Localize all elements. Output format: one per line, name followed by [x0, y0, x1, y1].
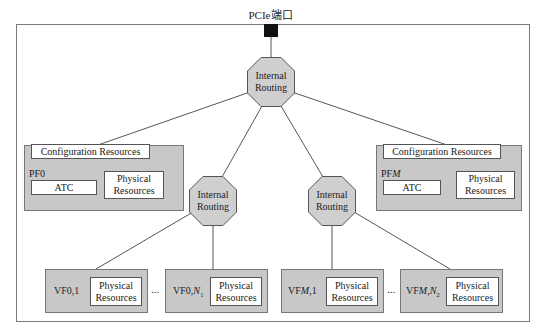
- router-label: Internal: [197, 189, 228, 200]
- internal-routing-right: InternalRouting: [308, 176, 356, 226]
- pfm-label: PFM: [381, 168, 400, 179]
- pfm-physical-resources: PhysicalResources: [456, 171, 515, 199]
- vf0-1-label: VF0,1: [54, 285, 79, 296]
- vf0-n1-label: VF0,N1: [173, 285, 203, 299]
- router-label: Routing: [197, 201, 229, 212]
- router-label: Internal: [255, 70, 286, 81]
- vf0-1-box: VF0,1 PhysicalResources: [45, 269, 148, 313]
- vf0-n1-physical-resources: PhysicalResources: [210, 277, 262, 306]
- pf0-label: PF0: [29, 168, 45, 179]
- internal-routing-top: InternalRouting: [247, 57, 295, 107]
- pf0-box: Configuration Resources PF0 ATC Physical…: [24, 145, 184, 211]
- pfm-config-resources: Configuration Resources: [383, 144, 501, 159]
- pfm-atc: ATC: [383, 180, 441, 195]
- pf0-config-resources: Configuration Resources: [31, 144, 150, 159]
- vfm-n2-label: VFM,N2: [406, 285, 440, 299]
- pf0-physical-resources: PhysicalResources: [104, 171, 164, 199]
- ellipsis: ...: [387, 283, 395, 295]
- ellipsis: ...: [151, 283, 159, 295]
- internal-routing-left: InternalRouting: [189, 176, 237, 226]
- vfm-n2-box: VFM,N2 PhysicalResources: [400, 269, 503, 313]
- vfm-1-box: VFM,1 PhysicalResources: [281, 269, 384, 313]
- router-label: Internal: [316, 189, 347, 200]
- vfm-1-label: VFM,1: [288, 285, 317, 296]
- vf0-1-physical-resources: PhysicalResources: [90, 277, 142, 306]
- pf0-atc: ATC: [31, 180, 97, 195]
- pfm-box: Configuration Resources PFM ATC Physical…: [376, 145, 522, 211]
- router-label: Routing: [255, 82, 287, 93]
- vf0-n1-box: VF0,N1 PhysicalResources: [165, 269, 268, 313]
- vfm-1-physical-resources: PhysicalResources: [326, 277, 378, 306]
- router-label: Routing: [316, 201, 348, 212]
- vfm-n2-physical-resources: PhysicalResources: [446, 277, 499, 306]
